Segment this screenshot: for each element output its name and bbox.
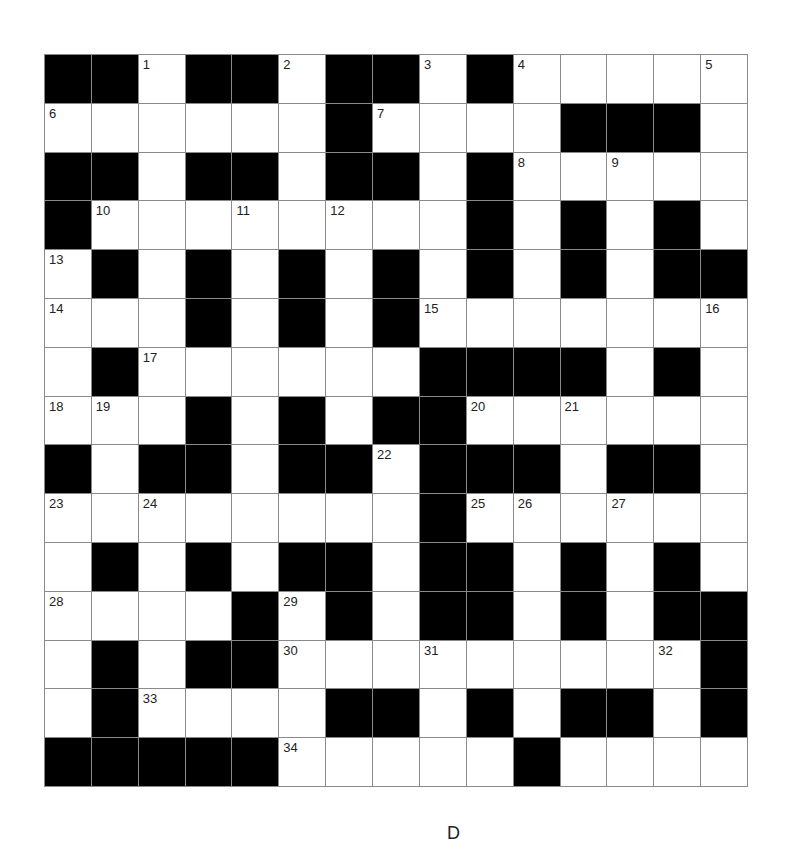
grid-cell[interactable]: 30 [279, 641, 325, 689]
grid-cell[interactable]: 31 [420, 641, 466, 689]
grid-cell[interactable] [561, 445, 607, 493]
grid-cell[interactable]: 23 [45, 494, 91, 542]
grid-cell[interactable] [607, 641, 653, 689]
grid-cell[interactable] [45, 641, 91, 689]
grid-cell[interactable]: 12 [326, 201, 372, 249]
grid-cell[interactable]: 26 [514, 494, 560, 542]
grid-cell[interactable] [232, 299, 278, 347]
grid-cell[interactable] [561, 153, 607, 201]
grid-cell[interactable] [701, 397, 747, 445]
grid-cell[interactable] [186, 592, 232, 640]
grid-cell[interactable]: 14 [45, 299, 91, 347]
grid-cell[interactable] [514, 250, 560, 298]
grid-cell[interactable] [373, 494, 419, 542]
grid-cell[interactable] [561, 299, 607, 347]
grid-cell[interactable] [607, 397, 653, 445]
grid-cell[interactable]: 32 [654, 641, 700, 689]
grid-cell[interactable] [326, 738, 372, 786]
grid-cell[interactable] [607, 299, 653, 347]
grid-cell[interactable] [326, 299, 372, 347]
grid-cell[interactable] [139, 543, 185, 591]
grid-cell[interactable] [279, 348, 325, 396]
grid-cell[interactable] [232, 445, 278, 493]
grid-cell[interactable] [232, 104, 278, 152]
grid-cell[interactable]: 33 [139, 689, 185, 737]
grid-cell[interactable]: 18 [45, 397, 91, 445]
grid-cell[interactable] [139, 104, 185, 152]
grid-cell[interactable]: 27 [607, 494, 653, 542]
grid-cell[interactable] [92, 104, 138, 152]
grid-cell[interactable] [326, 397, 372, 445]
grid-cell[interactable] [326, 494, 372, 542]
grid-cell[interactable] [92, 299, 138, 347]
grid-cell[interactable] [561, 55, 607, 103]
grid-cell[interactable] [92, 592, 138, 640]
grid-cell[interactable] [279, 689, 325, 737]
grid-cell[interactable] [279, 104, 325, 152]
grid-cell[interactable] [45, 689, 91, 737]
grid-cell[interactable] [701, 153, 747, 201]
grid-cell[interactable] [654, 689, 700, 737]
grid-cell[interactable] [45, 348, 91, 396]
grid-cell[interactable] [514, 641, 560, 689]
grid-cell[interactable] [701, 494, 747, 542]
grid-cell[interactable] [232, 689, 278, 737]
grid-cell[interactable] [420, 104, 466, 152]
grid-cell[interactable] [420, 201, 466, 249]
grid-cell[interactable] [326, 348, 372, 396]
grid-cell[interactable] [186, 348, 232, 396]
grid-cell[interactable] [607, 592, 653, 640]
grid-cell[interactable]: 4 [514, 55, 560, 103]
grid-cell[interactable] [420, 250, 466, 298]
grid-cell[interactable] [373, 543, 419, 591]
grid-cell[interactable]: 10 [92, 201, 138, 249]
grid-cell[interactable] [186, 689, 232, 737]
grid-cell[interactable] [373, 641, 419, 689]
grid-cell[interactable]: 3 [420, 55, 466, 103]
grid-cell[interactable] [139, 641, 185, 689]
grid-cell[interactable]: 20 [467, 397, 513, 445]
grid-cell[interactable] [373, 348, 419, 396]
grid-cell[interactable]: 15 [420, 299, 466, 347]
grid-cell[interactable] [373, 201, 419, 249]
grid-cell[interactable] [514, 689, 560, 737]
grid-cell[interactable]: 5 [701, 55, 747, 103]
grid-cell[interactable]: 29 [279, 592, 325, 640]
grid-cell[interactable] [232, 543, 278, 591]
grid-cell[interactable] [561, 494, 607, 542]
grid-cell[interactable] [701, 201, 747, 249]
grid-cell[interactable] [232, 494, 278, 542]
grid-cell[interactable]: 8 [514, 153, 560, 201]
grid-cell[interactable] [92, 494, 138, 542]
grid-cell[interactable] [701, 445, 747, 493]
grid-cell[interactable] [607, 543, 653, 591]
grid-cell[interactable] [561, 738, 607, 786]
grid-cell[interactable] [232, 397, 278, 445]
grid-cell[interactable]: 2 [279, 55, 325, 103]
grid-cell[interactable] [654, 299, 700, 347]
grid-cell[interactable]: 28 [45, 592, 91, 640]
grid-cell[interactable]: 17 [139, 348, 185, 396]
grid-cell[interactable] [654, 55, 700, 103]
grid-cell[interactable] [654, 494, 700, 542]
grid-cell[interactable]: 22 [373, 445, 419, 493]
grid-cell[interactable] [514, 397, 560, 445]
grid-cell[interactable] [654, 153, 700, 201]
grid-cell[interactable]: 7 [373, 104, 419, 152]
grid-cell[interactable] [607, 348, 653, 396]
grid-cell[interactable] [420, 689, 466, 737]
grid-cell[interactable] [514, 299, 560, 347]
grid-cell[interactable] [279, 153, 325, 201]
grid-cell[interactable] [92, 445, 138, 493]
grid-cell[interactable]: 13 [45, 250, 91, 298]
grid-cell[interactable] [654, 397, 700, 445]
grid-cell[interactable] [467, 641, 513, 689]
grid-cell[interactable] [561, 641, 607, 689]
grid-cell[interactable] [279, 201, 325, 249]
grid-cell[interactable] [607, 250, 653, 298]
grid-cell[interactable]: 25 [467, 494, 513, 542]
grid-cell[interactable]: 9 [607, 153, 653, 201]
grid-cell[interactable] [701, 738, 747, 786]
grid-cell[interactable]: 21 [561, 397, 607, 445]
grid-cell[interactable] [186, 494, 232, 542]
